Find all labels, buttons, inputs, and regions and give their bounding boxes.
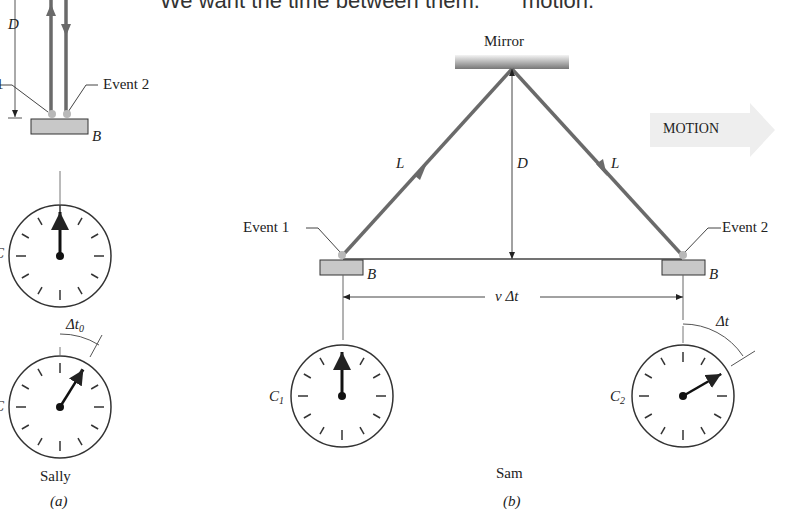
block-b-left [320,260,363,275]
block-right-label-b: B [709,266,718,283]
panel-tag-b: (b) [503,493,521,510]
event1-label-b: Event 1 [243,219,289,236]
panel-b [291,55,775,447]
event1-leader-a [0,85,48,112]
time-dilation-figure: We want the time between them. motion. [0,0,787,514]
light-path-down [61,0,71,112]
panel-tag-a: (a) [50,493,68,510]
distance-label-b: D [517,155,528,172]
clock-top-label-a: C [0,245,4,262]
event2-label-a: Event 2 [103,76,149,93]
clock-sally-end [9,334,111,458]
event2-label-b: Event 2 [722,219,768,236]
interval-label-b: Δt [716,313,729,330]
clock1-label: C1 [269,388,284,406]
distance-label-a: D [8,16,19,33]
clock-sally-start [9,171,111,307]
path-left-label: L [396,155,404,172]
clock-bottom-label-a: C [0,398,4,415]
displacement-label: v Δt [495,288,518,305]
event1-label-a: 1 [0,76,4,93]
clock-sam-c2 [632,324,755,447]
event2-leader-a [68,85,98,112]
light-path-left [343,69,512,255]
interval-label-a: Δt0 [66,316,84,334]
event2-leader-b [685,228,721,252]
block-left-label-b: B [367,266,376,283]
observer-sam: Sam [496,465,523,482]
observer-sally: Sally [40,468,71,485]
motion-label: MOTION [663,121,719,137]
mirror-label: Mirror [484,33,524,50]
block-label-a: B [92,128,101,145]
path-right-label: L [611,155,619,172]
event1-dot-a [48,110,56,118]
block-b-right [662,260,705,275]
event2-dot-a [63,110,71,118]
block-b-a [31,119,88,134]
clock-sam-c1 [291,345,393,447]
mirror [455,55,569,69]
distance-dimension-b [509,69,515,259]
light-path-up [46,0,56,112]
event2-dot-b [679,251,687,259]
light-path-right [512,69,682,255]
clock2-label: C2 [610,388,625,406]
event1-dot-b [338,251,346,259]
panel-a [0,0,111,458]
event1-leader-b [306,228,340,252]
